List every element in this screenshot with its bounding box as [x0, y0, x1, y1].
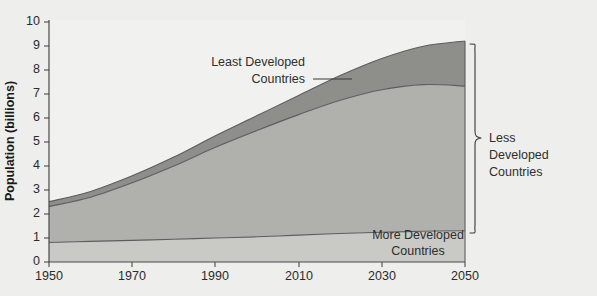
y-tick-label: 5: [33, 134, 40, 148]
y-tick-label: 2: [33, 206, 40, 220]
y-tick-label: 0: [33, 254, 40, 268]
y-tick-label: 10: [26, 14, 40, 28]
x-axis-ticks: [49, 262, 465, 267]
y-axis-title: Population (billions): [3, 81, 17, 201]
y-tick-label: 9: [33, 38, 40, 52]
x-axis-tick-labels: 1950 1970 1990 2010 2030 2050: [35, 269, 479, 283]
annotation-more-developed-line1: More Developed: [372, 228, 464, 242]
annotation-less-developed-line3: Countries: [489, 165, 543, 179]
x-tick-label: 2010: [285, 269, 313, 283]
y-tick-label: 1: [33, 230, 40, 244]
y-tick-label: 3: [33, 182, 40, 196]
y-axis-ticks: [44, 22, 49, 262]
chart-canvas: 10 9 8 7 6 5 4 3 2 1 0 1950 1970 1990 20…: [0, 0, 597, 296]
annotation-less-developed: Less Developed Countries: [470, 44, 549, 233]
annotation-less-developed-line2: Developed: [489, 148, 549, 162]
y-tick-label: 4: [33, 158, 40, 172]
x-tick-label: 1970: [118, 269, 146, 283]
annotation-more-developed-line2: Countries: [391, 244, 445, 258]
y-tick-label: 7: [33, 86, 40, 100]
y-axis-tick-labels: 10 9 8 7 6 5 4 3 2 1 0: [26, 14, 40, 268]
brace-bracket: [470, 44, 481, 233]
annotation-least-developed-line2: Countries: [252, 72, 306, 86]
y-tick-label: 6: [33, 110, 40, 124]
y-tick-label: 8: [33, 62, 40, 76]
x-tick-label: 2050: [451, 269, 479, 283]
population-area-chart: 10 9 8 7 6 5 4 3 2 1 0 1950 1970 1990 20…: [0, 0, 597, 296]
annotation-least-developed-line1: Least Developed: [211, 55, 305, 69]
x-tick-label: 1950: [35, 269, 63, 283]
x-tick-label: 1990: [201, 269, 229, 283]
x-tick-label: 2030: [368, 269, 396, 283]
annotation-less-developed-line1: Less: [489, 131, 515, 145]
